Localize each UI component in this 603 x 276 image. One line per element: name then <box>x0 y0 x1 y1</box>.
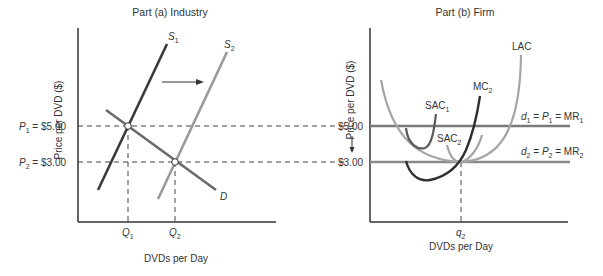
panel-a-y-axis-label: Price per DVD ($) <box>53 81 64 160</box>
panel-industry: Part (a) Industry Price per DVD ($) DVDs… <box>19 6 345 264</box>
p2-label: P2 = $3.00 <box>19 157 66 170</box>
d-label: D <box>220 191 227 202</box>
industry-firm-diagram: Part (a) Industry Price per DVD ($) DVDs… <box>0 0 603 276</box>
sac2-label: SAC2 <box>437 133 462 146</box>
equilibrium-point-1 <box>125 123 132 130</box>
shift-arrow-head-icon <box>196 79 204 85</box>
panel-b-x-axis-label: DVDs per Day <box>429 241 493 252</box>
supply-curve-s1 <box>98 44 167 190</box>
lac-curve <box>381 55 521 162</box>
demand-curve-d <box>106 110 216 190</box>
firm-p2-label: $3.00 <box>338 157 363 168</box>
s2-label: S2 <box>224 39 235 52</box>
equilibrium-point-2 <box>172 159 179 166</box>
d1-label: d1 = P1 = MR1 <box>521 111 583 124</box>
s1-label: S1 <box>168 31 179 44</box>
panel-b-title: Part (b) Firm <box>436 6 495 18</box>
sac1-label: SAC1 <box>425 100 450 113</box>
q2-label: Q2 <box>169 227 181 240</box>
mc2-label: MC2 <box>473 81 493 94</box>
panel-a-x-axis-label: DVDs per Day <box>144 253 208 264</box>
d2-label: d2 = P2 = MR2 <box>521 146 583 159</box>
firm-p1-label: $5.00 <box>338 121 363 132</box>
sac1-curve <box>406 114 436 148</box>
q1-label: Q1 <box>122 227 134 240</box>
q2-firm-label: q2 <box>456 227 466 240</box>
price-drop-arrow-icon <box>350 147 355 153</box>
panel-firm: Part (b) Firm Price per DVD ($) DVDs per… <box>338 6 583 252</box>
panel-a-title: Part (a) Industry <box>132 6 208 18</box>
lac-label: LAC <box>512 41 531 52</box>
